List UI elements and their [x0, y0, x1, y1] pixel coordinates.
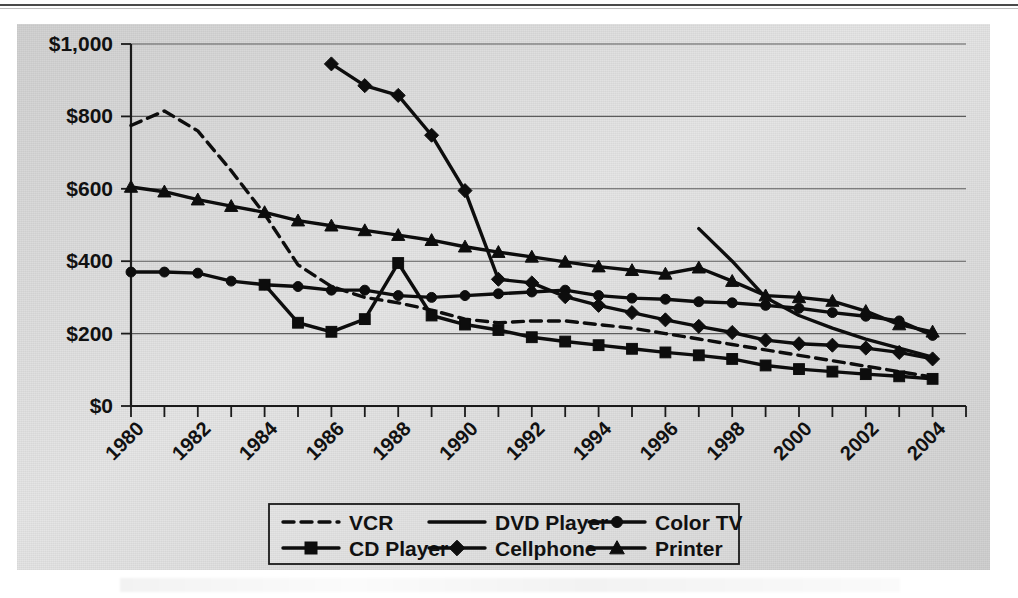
x-axis-tick-label: 1982	[168, 417, 215, 464]
data-point-marker	[326, 285, 336, 295]
data-point-marker	[759, 333, 773, 347]
data-point-marker	[727, 298, 737, 308]
data-point-marker	[525, 276, 539, 290]
series-printer	[124, 180, 939, 337]
data-point-marker	[692, 319, 706, 333]
data-point-marker	[493, 325, 504, 336]
scan-smudge	[120, 578, 900, 592]
data-point-marker	[827, 366, 838, 377]
line-chart: $0$200$400$600$800$1,0001980198219841986…	[17, 24, 990, 570]
x-axis-tick-label: 2000	[769, 417, 816, 464]
data-point-marker	[360, 285, 370, 295]
axes	[131, 44, 966, 406]
data-point-marker	[560, 336, 571, 347]
page-root: $0$200$400$600$800$1,0001980198219841986…	[0, 0, 1018, 598]
x-axis-tick-label: 1988	[368, 417, 415, 464]
data-point-marker	[794, 364, 805, 375]
data-point-marker	[658, 313, 672, 327]
data-point-marker	[625, 306, 639, 320]
legend-item-label: Color TV	[655, 511, 743, 534]
data-point-marker	[359, 314, 370, 325]
page-top-rule	[0, 4, 1018, 6]
legend-swatch-marker	[611, 516, 622, 527]
data-point-marker	[393, 291, 403, 301]
gridlines: $0$200$400$600$800$1,000	[49, 32, 966, 417]
data-point-marker	[293, 282, 303, 292]
data-point-marker	[593, 340, 604, 351]
x-axis-tick-label: 1984	[234, 417, 282, 465]
data-point-marker	[259, 279, 270, 290]
x-axis-tick-label: 2002	[836, 417, 883, 464]
y-axis-tick-label: $600	[66, 177, 113, 200]
data-point-marker	[760, 360, 771, 371]
chart-panel: $0$200$400$600$800$1,0001980198219841986…	[17, 24, 990, 570]
data-point-marker	[894, 371, 905, 382]
y-axis-tick-label: $1,000	[49, 32, 113, 55]
data-point-marker	[491, 272, 505, 286]
data-point-marker	[761, 300, 771, 310]
data-point-marker	[827, 308, 837, 318]
data-point-marker	[159, 267, 169, 277]
data-point-marker	[427, 292, 437, 302]
data-point-marker	[725, 325, 739, 339]
x-axis-tick-label: 1980	[101, 417, 148, 464]
series-cd-player	[259, 258, 938, 385]
y-axis-tick-label: $400	[66, 249, 113, 272]
x-axis-tick-label: 1992	[502, 417, 549, 464]
x-axis-tick-label: 2004	[902, 417, 950, 465]
data-point-marker	[393, 258, 404, 269]
chart-legend: VCRDVD PlayerColor TVCD PlayerCellphoneP…	[269, 504, 743, 564]
data-point-marker	[226, 276, 236, 286]
data-point-marker	[426, 310, 437, 321]
data-point-marker	[460, 319, 471, 330]
data-point-marker	[860, 369, 871, 380]
data-point-marker	[627, 343, 638, 354]
x-axis-tick-label: 1986	[301, 417, 348, 464]
page-top-rule-secondary	[0, 8, 1018, 9]
data-point-marker	[126, 267, 136, 277]
data-point-marker	[326, 326, 337, 337]
data-point-marker	[193, 268, 203, 278]
data-point-marker	[493, 289, 503, 299]
data-point-marker	[460, 291, 470, 301]
x-axis-tick-label: 1998	[702, 417, 749, 464]
data-point-marker	[592, 298, 606, 312]
legend-item-label: Cellphone	[495, 537, 597, 560]
data-point-marker	[293, 317, 304, 328]
data-point-marker	[926, 352, 940, 366]
data-point-marker	[927, 373, 938, 384]
x-axis-ticks	[131, 406, 966, 417]
data-point-marker	[693, 350, 704, 361]
x-axis-tick-label: 1990	[435, 417, 482, 464]
data-point-marker	[792, 337, 806, 351]
data-point-marker	[825, 338, 839, 352]
y-axis-tick-label: $800	[66, 104, 113, 127]
data-point-marker	[660, 294, 670, 304]
data-point-marker	[660, 347, 671, 358]
data-point-marker	[859, 341, 873, 355]
legend-item-label: VCR	[349, 511, 393, 534]
data-point-marker	[727, 354, 738, 365]
data-point-marker	[627, 293, 637, 303]
legend-item-label: Printer	[655, 537, 723, 560]
legend-swatch-marker	[305, 542, 317, 554]
x-axis-tick-labels: 1980198219841986198819901992199419961998…	[101, 417, 950, 465]
data-point-marker	[526, 332, 537, 343]
x-axis-tick-label: 1996	[635, 417, 682, 464]
y-axis-tick-label: $200	[66, 322, 113, 345]
x-axis-tick-label: 1994	[568, 417, 616, 465]
y-axis-tick-label: $0	[90, 394, 113, 417]
data-point-marker	[694, 297, 704, 307]
series-cellphone	[324, 57, 939, 366]
data-point-marker	[794, 303, 804, 313]
